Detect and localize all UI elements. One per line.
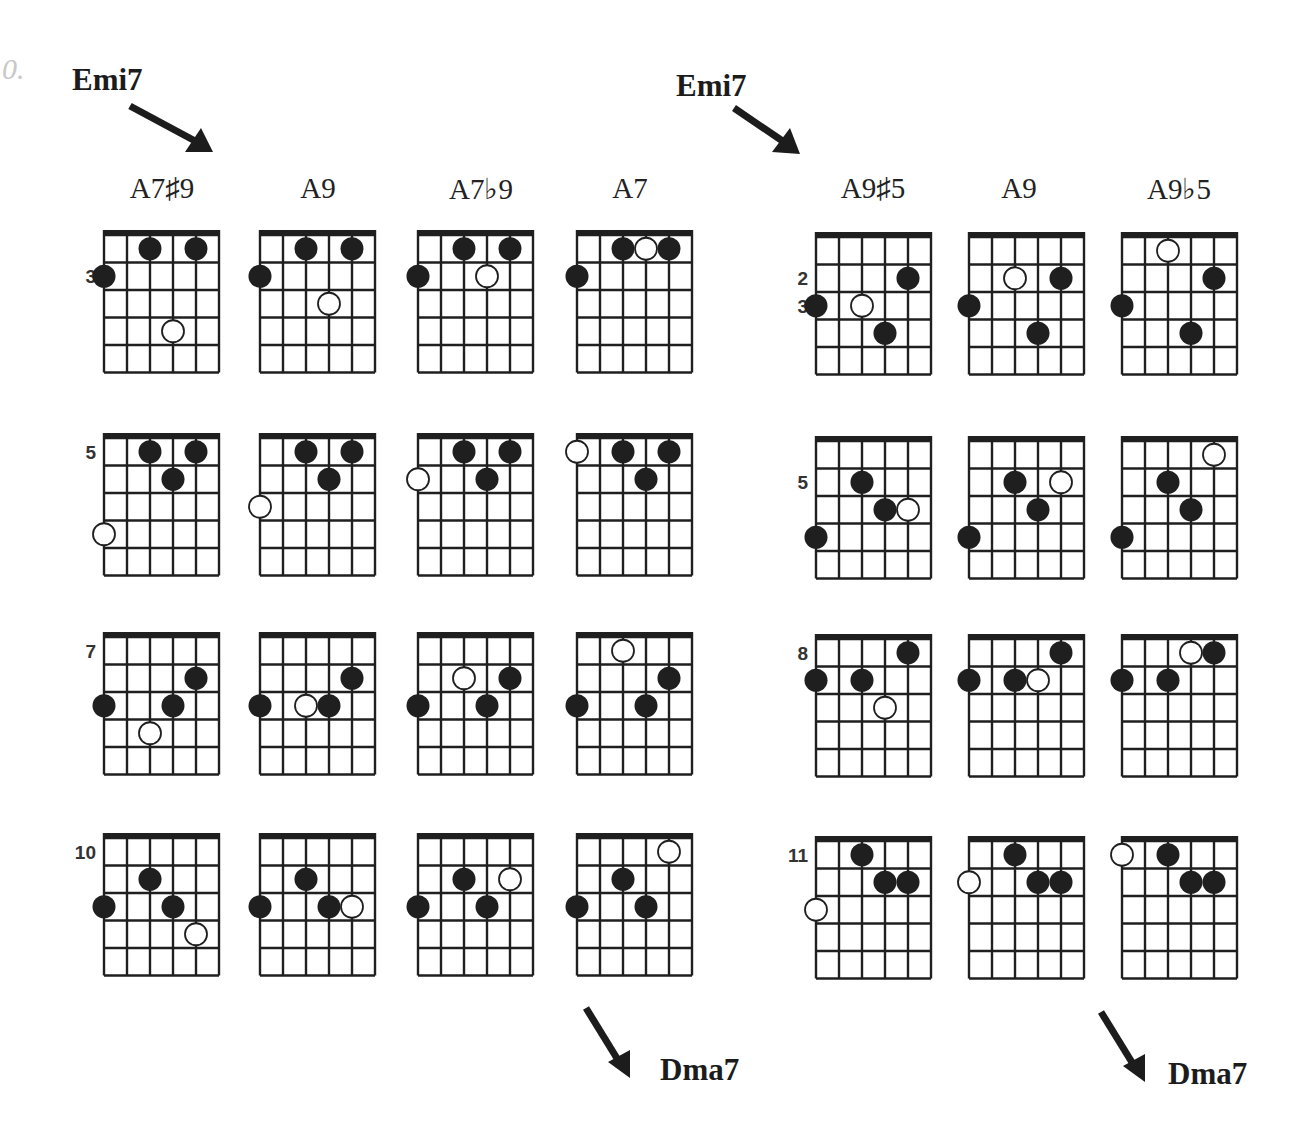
finger-dot-filled — [295, 237, 318, 260]
chord-diagram-grid: 35710235811 — [0, 0, 1303, 1127]
chord-diagram-left-r1-c0: 5 — [85, 433, 220, 576]
finger-dot-open — [407, 468, 429, 490]
finger-dot-filled — [249, 265, 272, 288]
finger-dot-filled — [958, 294, 981, 317]
chord-diagram-right-r1-c2 — [1111, 436, 1239, 579]
finger-dot-filled — [1050, 641, 1073, 664]
finger-dot-filled — [407, 694, 430, 717]
chord-diagram-right-r1-c1 — [958, 436, 1086, 579]
chord-diagram-left-r2-c1 — [249, 632, 377, 775]
finger-dot-filled — [635, 895, 658, 918]
finger-dot-filled — [566, 265, 589, 288]
finger-dot-filled — [851, 843, 874, 866]
finger-dot-filled — [897, 641, 920, 664]
chord-diagram-left-r1-c2 — [407, 433, 534, 576]
finger-dot-open — [958, 871, 980, 893]
chord-diagram-right-r2-c0: 8 — [797, 634, 932, 777]
fret-position-label: 11 — [788, 845, 809, 866]
finger-dot-filled — [476, 694, 499, 717]
finger-dot-filled — [566, 694, 589, 717]
chord-diagram-right-r0-c0: 23 — [797, 232, 932, 375]
finger-dot-filled — [612, 237, 635, 260]
fret-position-label: 7 — [85, 641, 96, 662]
finger-dot-open — [612, 640, 634, 662]
finger-dot-filled — [658, 667, 681, 690]
finger-dot-filled — [1111, 526, 1134, 549]
finger-dot-filled — [658, 440, 681, 463]
finger-dot-filled — [185, 237, 208, 260]
chord-diagram-left-r1-c1 — [249, 433, 376, 576]
finger-dot-filled — [1111, 294, 1134, 317]
finger-dot-open — [566, 441, 588, 463]
finger-dot-filled — [958, 526, 981, 549]
finger-dot-filled — [897, 267, 920, 290]
finger-dot-filled — [453, 440, 476, 463]
finger-dot-filled — [1180, 498, 1203, 521]
chord-diagram-right-r2-c2 — [1111, 634, 1239, 777]
chord-diagram-right-r2-c1 — [958, 634, 1086, 777]
fret-position-label: 10 — [75, 842, 96, 863]
finger-dot-filled — [1050, 267, 1073, 290]
finger-dot-filled — [407, 265, 430, 288]
finger-dot-filled — [318, 468, 341, 491]
finger-dot-open — [1180, 642, 1202, 664]
chord-diagram-right-r0-c2 — [1111, 232, 1239, 375]
finger-dot-filled — [635, 694, 658, 717]
finger-dot-open — [476, 265, 498, 287]
finger-dot-filled — [139, 237, 162, 260]
finger-dot-open — [874, 697, 896, 719]
finger-dot-filled — [185, 440, 208, 463]
finger-dot-filled — [1027, 498, 1050, 521]
finger-dot-open — [499, 868, 521, 890]
finger-dot-filled — [476, 895, 499, 918]
chord-diagram-right-r3-c0: 11 — [788, 836, 932, 979]
finger-dot-filled — [93, 895, 116, 918]
finger-dot-filled — [1004, 471, 1027, 494]
finger-dot-open — [453, 667, 475, 689]
finger-dot-open — [1203, 444, 1225, 466]
finger-dot-filled — [805, 294, 828, 317]
chord-diagram-left-r2-c3 — [566, 632, 694, 775]
finger-dot-filled — [318, 694, 341, 717]
finger-dot-filled — [805, 669, 828, 692]
chord-diagram-left-r2-c0: 7 — [85, 632, 220, 775]
finger-dot-filled — [1203, 267, 1226, 290]
finger-dot-filled — [295, 440, 318, 463]
finger-dot-filled — [318, 895, 341, 918]
chord-diagram-left-r0-c1 — [249, 230, 377, 373]
finger-dot-filled — [453, 237, 476, 260]
finger-dot-filled — [1157, 471, 1180, 494]
finger-dot-filled — [1004, 843, 1027, 866]
finger-dot-open — [897, 499, 919, 521]
finger-dot-open — [318, 293, 340, 315]
finger-dot-filled — [1027, 322, 1050, 345]
chord-diagram-right-r0-c1 — [958, 232, 1086, 375]
finger-dot-filled — [341, 667, 364, 690]
finger-dot-filled — [295, 868, 318, 891]
finger-dot-open — [1004, 267, 1026, 289]
finger-dot-filled — [566, 895, 589, 918]
fret-position-label: 5 — [797, 472, 808, 493]
finger-dot-filled — [407, 895, 430, 918]
finger-dot-open — [93, 523, 115, 545]
finger-dot-filled — [1180, 871, 1203, 894]
finger-dot-filled — [139, 868, 162, 891]
finger-dot-filled — [162, 694, 185, 717]
finger-dot-open — [658, 841, 680, 863]
fret-position-label: 5 — [85, 442, 96, 463]
finger-dot-filled — [1111, 669, 1134, 692]
chord-diagram-left-r3-c3 — [566, 833, 694, 976]
finger-dot-open — [295, 695, 317, 717]
finger-dot-filled — [658, 237, 681, 260]
chord-diagram-right-r1-c0: 5 — [797, 436, 932, 579]
finger-dot-filled — [1004, 669, 1027, 692]
finger-dot-open — [1050, 471, 1072, 493]
chord-diagram-left-r0-c0: 3 — [85, 230, 220, 373]
chord-diagram-right-r3-c1 — [958, 836, 1085, 979]
finger-dot-filled — [1050, 871, 1073, 894]
finger-dot-filled — [897, 871, 920, 894]
finger-dot-filled — [139, 440, 162, 463]
finger-dot-filled — [162, 468, 185, 491]
chord-diagram-left-r0-c3 — [566, 230, 694, 373]
finger-dot-filled — [1180, 322, 1203, 345]
